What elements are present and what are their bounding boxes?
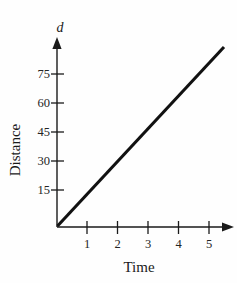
y-tick-label-75: 75 bbox=[18, 68, 50, 81]
x-tick-label-2: 2 bbox=[114, 238, 120, 251]
y-tick-label-60: 60 bbox=[18, 97, 50, 110]
data-series-line bbox=[58, 47, 225, 226]
x-tick-label-1: 1 bbox=[84, 238, 90, 251]
x-axis-title: Time bbox=[123, 259, 154, 276]
y-axis-arrow-icon bbox=[52, 37, 61, 49]
y-axis-title: Distance bbox=[7, 124, 24, 176]
x-tick-label-3: 3 bbox=[145, 238, 151, 251]
x-tick-label-5: 5 bbox=[206, 238, 212, 251]
distance-time-chart: d 75 60 45 30 15 1 2 3 4 5 Time Distance bbox=[0, 0, 237, 283]
x-axis-arrow-icon bbox=[222, 222, 234, 231]
y-tick-label-15: 15 bbox=[18, 184, 50, 197]
x-tick-label-4: 4 bbox=[175, 238, 181, 251]
y-axis-variable-label: d bbox=[57, 20, 64, 36]
